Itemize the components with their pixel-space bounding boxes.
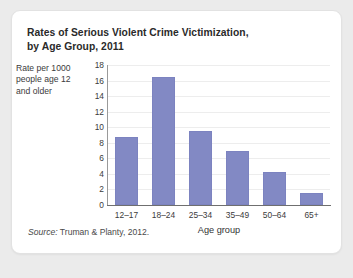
figure-title-line-1: Rates of Serious Violent Crime Victimiza… [27, 26, 317, 40]
figure-title-line-2: by Age Group, 2011 [27, 40, 317, 54]
y-axis-tick-label: 4 [99, 169, 104, 179]
bar [263, 172, 286, 205]
y-axis-tick-label: 0 [99, 200, 104, 210]
bar [189, 131, 212, 205]
source-note: Source: Truman & Planty, 2012. [28, 227, 149, 237]
x-axis-tick-label: 25–34 [189, 210, 212, 220]
y-axis-tick-label: 14 [95, 91, 104, 101]
y-axis-tick-label: 18 [95, 60, 104, 70]
figure-title: Rates of Serious Violent Crime Victimiza… [27, 26, 317, 53]
y-axis-tick-label: 12 [95, 107, 104, 117]
y-axis-tick-label: 8 [99, 138, 104, 148]
bar-group: 25–34 [182, 65, 219, 205]
x-axis-tick-label: 50–64 [263, 210, 286, 220]
figure-card: Rates of Serious Violent Crime Victimiza… [11, 10, 342, 254]
x-axis-tick-label: 65+ [304, 210, 318, 220]
bar-group: 12–17 [108, 65, 145, 205]
x-axis-tick-label: 18–24 [152, 210, 175, 220]
y-axis-title-line-1: Rate per 1000 [16, 63, 96, 74]
bar [226, 151, 249, 205]
y-axis-tick-label: 6 [99, 153, 104, 163]
source-text: Truman & Planty, 2012. [58, 227, 150, 237]
bar-group: 65+ [293, 65, 330, 205]
bar-chart: Rate per 1000 people age 12 and older 02… [12, 59, 343, 219]
bar-group: 50–64 [256, 65, 293, 205]
y-axis-title-line-3: and older [16, 86, 96, 97]
source-label: Source: [28, 227, 58, 237]
bar-group: 18–24 [145, 65, 182, 205]
bar [115, 137, 138, 205]
bar [300, 193, 323, 205]
y-axis-tick-label: 16 [95, 76, 104, 86]
x-axis-tick-label: 35–49 [226, 210, 249, 220]
bar-group: 35–49 [219, 65, 256, 205]
x-axis-line [107, 205, 331, 206]
x-axis-tick-label: 12–17 [115, 210, 138, 220]
y-axis-title-line-2: people age 12 [16, 74, 96, 85]
bar-series: 12–1718–2425–3435–4950–6465+ [108, 65, 330, 205]
plot-area: 024681012141618 12–1718–2425–3435–4950–6… [108, 65, 330, 205]
bar [152, 77, 175, 205]
y-axis-title: Rate per 1000 people age 12 and older [16, 63, 96, 97]
y-axis-tick-label: 10 [95, 122, 104, 132]
y-axis-tick-label: 2 [99, 184, 104, 194]
